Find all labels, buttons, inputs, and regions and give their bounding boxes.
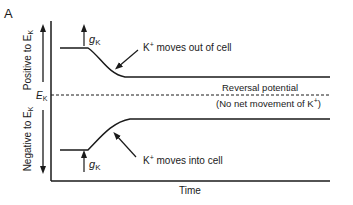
svg-text:Positive to EK: Positive to EK: [22, 30, 34, 91]
x-axis-label: Time: [179, 185, 201, 196]
ek-label: EK: [36, 90, 48, 102]
lower-trace: [60, 119, 330, 150]
panel-label: A: [4, 6, 13, 21]
no-net-movement-label: (No net movement of K+): [216, 97, 321, 109]
svg-text:Negative to EK: Negative to EK: [22, 106, 34, 171]
y-label-negative: Negative to EK: [22, 106, 34, 171]
k-out-label: K+ moves out of cell: [143, 41, 232, 53]
gk-upper-label: gK: [89, 33, 101, 47]
in-pointer-icon: [116, 135, 136, 157]
k-in-label: K+ moves into cell: [143, 154, 223, 166]
reversal-potential-diagram: A Positive to EK Negative to EK EK gK gK…: [0, 0, 353, 205]
y-label-positive: Positive to EK: [22, 30, 34, 91]
out-pointer-icon: [118, 50, 138, 67]
reversal-label: Reversal potential: [222, 82, 298, 93]
gk-lower-label: gK: [89, 158, 101, 172]
